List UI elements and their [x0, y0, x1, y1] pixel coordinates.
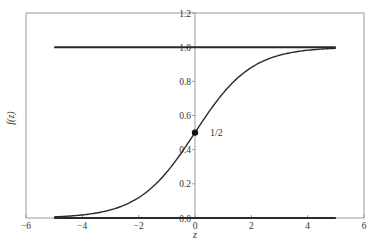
- x-tick-label: 4: [305, 221, 310, 231]
- x-tick-label: −2: [134, 221, 144, 231]
- x-axis-title: z: [192, 229, 197, 240]
- y-axis-title: f(z): [5, 111, 17, 125]
- y-axis: 0.00.20.40.60.81.01.2: [179, 9, 195, 224]
- midpoint-marker: [192, 129, 198, 135]
- x-tick-label: 2: [249, 221, 254, 231]
- midpoint-label: 1/2: [210, 127, 223, 138]
- x-tick-label: 6: [362, 221, 367, 231]
- y-tick-label: 0.6: [179, 111, 191, 121]
- y-tick-label: 0.2: [179, 179, 191, 189]
- x-tick-label: −4: [77, 221, 87, 231]
- annotation-layer: 1/2: [192, 127, 223, 138]
- sigmoid-chart: 0.00.20.40.60.81.01.2 −6−4−20246 1/2 z f…: [0, 0, 377, 246]
- y-tick-label: 0.8: [179, 77, 191, 87]
- x-tick-label: −6: [21, 221, 31, 231]
- y-tick-label: 1.2: [179, 9, 191, 19]
